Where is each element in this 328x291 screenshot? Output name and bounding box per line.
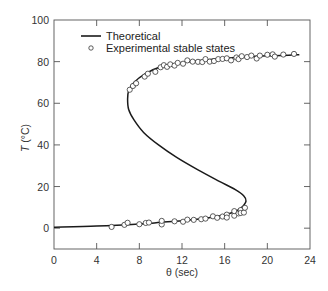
legend-label-experimental: Experimental stable states [106,42,236,54]
experimental-point [153,69,158,74]
x-tick-label: 4 [94,254,100,266]
experimental-point [146,220,151,225]
experimental-point [190,59,195,64]
experimental-point [109,224,114,229]
legend: Theoretical Experimental stable states [81,30,236,54]
x-tick-label: 8 [136,254,142,266]
experimental-point [134,81,139,86]
chart: 04812162024020406080100 Theoretical Expe… [0,0,328,291]
experimental-point [281,52,286,57]
legend-circle-icon [89,46,93,50]
experimental-point [215,215,220,220]
experimental-point [241,210,246,215]
experimental-point [249,53,254,58]
x-tick-label: 0 [51,254,57,266]
svg-text:T (°C): T (°C) [19,124,31,152]
experimental-point [137,222,142,227]
experimental-point [185,58,190,63]
y-tick-label: 20 [37,181,49,193]
y-tick-label: 0 [43,222,49,234]
experimental-point [145,71,150,76]
experimental-point [185,217,190,222]
experimental-point [239,54,244,59]
x-axis-title: θ (sec) [166,266,198,278]
experimental-point [291,51,296,56]
theoretical-curve [54,55,299,227]
experimental-point [242,205,247,210]
legend-label-theoretical: Theoretical [106,30,160,42]
x-tick-label: 16 [219,254,231,266]
y-axis-title: T (°C) [19,124,31,152]
experimental-point [191,217,196,222]
y-tick-label: 60 [37,97,49,109]
experimental-point [224,215,229,220]
experimental-point [228,58,233,63]
experimental-point [172,219,177,224]
experimental-point [265,52,270,57]
experimental-points [109,51,297,229]
experimental-point [159,218,164,223]
y-axis-title-unit: (°C) [19,124,31,146]
experimental-point [175,60,180,65]
theoretical-line [54,55,299,227]
x-tick-label: 12 [176,254,188,266]
experimental-point [203,216,208,221]
x-tick-label: 24 [304,254,316,266]
y-tick-label: 40 [37,139,49,151]
experimental-point [125,220,130,225]
experimental-point [272,54,277,59]
y-tick-label: 80 [37,56,49,68]
x-tick-label: 20 [261,254,273,266]
experimental-point [257,53,262,58]
y-tick-label: 100 [31,14,49,26]
